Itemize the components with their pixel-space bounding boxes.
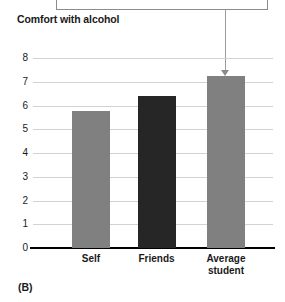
x-axis-label-friends: Friends bbox=[121, 253, 193, 265]
x-axis-label-self: Self bbox=[55, 253, 127, 265]
x-axis-label-average-student: Average student bbox=[190, 253, 262, 277]
bar-average-student[interactable] bbox=[207, 76, 245, 248]
panel-label: (B) bbox=[18, 281, 33, 293]
bar-friends[interactable] bbox=[138, 96, 176, 248]
bar-self[interactable] bbox=[72, 111, 110, 248]
bar-group bbox=[0, 0, 285, 248]
